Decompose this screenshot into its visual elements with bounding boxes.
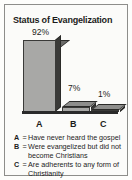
axis-baseline bbox=[22, 111, 118, 114]
value-label-a: 92% bbox=[32, 27, 49, 37]
legend-key-b: B bbox=[14, 142, 21, 151]
legend-equals-a: = bbox=[21, 133, 28, 142]
category-label-b: B bbox=[70, 119, 77, 129]
bar-a bbox=[23, 27, 61, 113]
chart-frame: Status of Evangelization 92% 7% 1% bbox=[4, 4, 128, 176]
legend-key-a: A bbox=[14, 133, 21, 142]
legend-text-b: Were evangelized but did not become Chri… bbox=[28, 142, 128, 160]
bar-c bbox=[91, 27, 125, 113]
chart-legend: A = Have never heard the gospel B = Were… bbox=[14, 133, 128, 178]
bar-a-front-face bbox=[23, 40, 56, 112]
category-label-c: C bbox=[100, 119, 107, 129]
legend-text-a: Have never heard the gospel bbox=[28, 133, 128, 142]
chart-title: Status of Evangelization bbox=[13, 15, 112, 25]
legend-text-c: Are adherents to any form of Christianit… bbox=[28, 160, 128, 178]
legend-key-c: C bbox=[14, 160, 21, 169]
chart-figure: Status of Evangelization 92% 7% 1% bbox=[0, 0, 132, 180]
value-label-c: 1% bbox=[98, 89, 110, 99]
legend-item-c: C = Are adherents to any form of Christi… bbox=[14, 160, 128, 178]
category-label-a: A bbox=[36, 119, 43, 129]
legend-equals-c: = bbox=[21, 160, 28, 169]
category-axis: A B C bbox=[13, 119, 129, 131]
plot-area: 92% 7% 1% bbox=[13, 27, 129, 121]
legend-equals-b: = bbox=[21, 142, 28, 151]
legend-item-b: B = Were evangelized but did not become … bbox=[14, 142, 128, 160]
value-label-b: 7% bbox=[68, 83, 80, 93]
legend-item-a: A = Have never heard the gospel bbox=[14, 133, 128, 142]
